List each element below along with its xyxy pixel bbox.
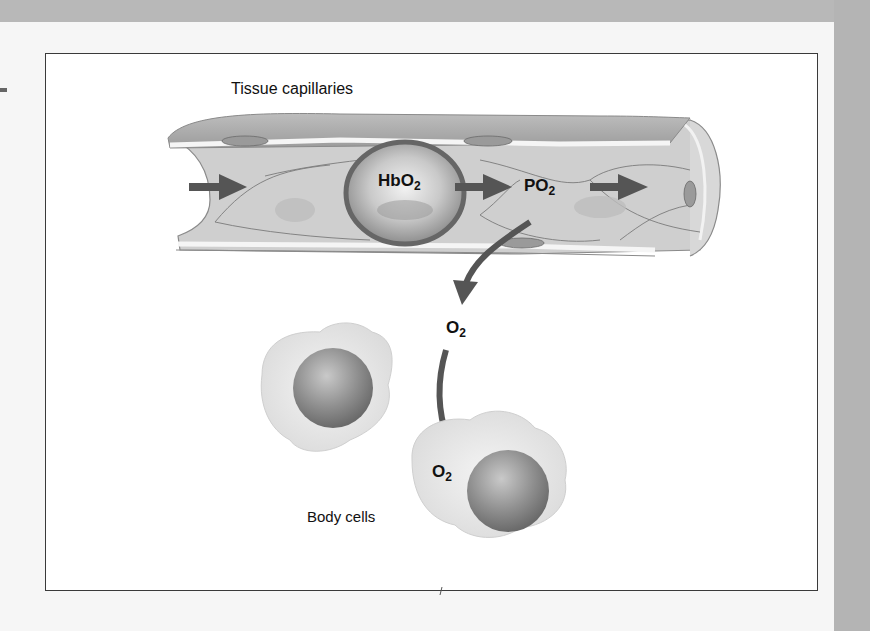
figure-title: Tissue capillaries (231, 80, 353, 98)
capillary-diagram (0, 0, 870, 631)
label-o2-in-cell: O2 (432, 462, 452, 484)
label-o2-diffusing: O2 (446, 318, 466, 340)
body-cell-left (261, 323, 392, 451)
figure-caption: Body cells (307, 508, 375, 525)
label-po2: PO2 (524, 176, 555, 198)
frame-tick (440, 587, 442, 595)
red-blood-cell (346, 142, 464, 244)
arrow-down-icon (453, 280, 478, 305)
label-hbo2: HbO2 (378, 171, 421, 193)
